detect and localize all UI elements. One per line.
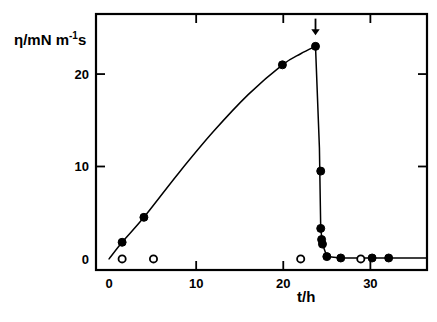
data-point-filled [140,213,148,221]
x-axis-label: t/h [297,288,315,305]
data-point-filled [312,42,320,50]
data-point-filled [337,254,345,262]
x-axis-label-text: t/h [297,288,315,305]
data-point-filled [323,253,331,261]
arrow-head-icon [311,29,319,35]
y-tick-label: 0 [82,252,89,267]
y-axis-label: η/mN m-1s [14,30,86,48]
x-tick-label: 10 [189,276,203,291]
data-point-filled [368,254,376,262]
data-point-filled [317,167,325,175]
x-tick-label: 20 [276,276,290,291]
gelation-arrow [311,19,319,36]
y-axis-label-exponent: -1 [69,30,78,41]
data-point-filled [318,240,326,248]
plot-area: 010203001020 [0,0,437,322]
y-tick-label: 20 [75,67,89,82]
y-axis-label-prefix: η/mN m [14,31,69,48]
data-point-filled [278,61,286,69]
data-point-open [150,255,157,262]
data-point-open [297,255,304,262]
data-point-filled [118,238,126,246]
chart-figure: η/mN m-1s t/h 010203001020 [0,0,437,322]
data-point-open [357,255,364,262]
curve-fall [316,46,427,258]
axis-frame [96,14,427,270]
curve-rise [109,46,315,259]
data-point-open [119,255,126,262]
y-axis-label-suffix: s [78,31,86,48]
data-point-filled [385,254,393,262]
x-tick-label: 0 [105,276,112,291]
data-point-filled [317,224,325,232]
y-tick-label: 10 [75,159,89,174]
x-tick-label: 30 [363,276,377,291]
